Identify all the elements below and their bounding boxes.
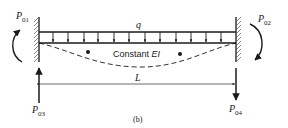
inflection-point-left — [86, 50, 90, 54]
p04-label: P04 — [228, 103, 243, 117]
figure-caption: (b) — [133, 115, 143, 124]
distributed-load — [39, 32, 236, 42]
moment-p02: P02 — [250, 13, 272, 60]
force-p04: P04 — [228, 68, 243, 117]
p03-label: P03 — [31, 104, 46, 118]
beam-label: Constant EI — [113, 49, 161, 59]
force-p03: P03 — [31, 68, 46, 118]
left-fixed-support — [34, 17, 39, 62]
p02-label: P02 — [257, 13, 272, 27]
inflection-point-right — [178, 52, 182, 56]
span-label: L — [134, 72, 141, 83]
p01-label: P01 — [15, 10, 30, 24]
load-label: q — [136, 19, 141, 30]
moment-p01: P01 — [13, 10, 30, 62]
span-dimension: L — [40, 72, 235, 84]
right-fixed-support — [236, 17, 241, 62]
beam-label-text: Constant — [113, 49, 150, 59]
beam-property: EI — [152, 49, 161, 59]
fixed-beam-diagram: q Constant EI P01 P02 P03 P04 L (b) — [0, 0, 288, 128]
